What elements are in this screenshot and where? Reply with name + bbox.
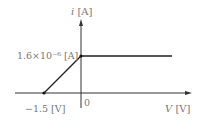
origin-label: 0: [84, 97, 90, 108]
iv-diagram: i [A] 1.6×10⁻⁶ [A] −1.5 [V] 0 V [V]: [0, 0, 201, 127]
iv-curve: [44, 56, 172, 93]
x-axis-label: V [V]: [165, 103, 191, 114]
cutoff-label: −1.5 [V]: [25, 103, 65, 114]
y-axis-arrow-icon: [79, 19, 83, 26]
saturation-label: 1.6×10⁻⁶ [A]: [17, 50, 78, 61]
cutoff-point: [42, 91, 45, 94]
x-axis-arrow-icon: [185, 91, 192, 95]
saturation-point: [79, 54, 82, 57]
y-axis-label: i [A]: [71, 6, 93, 17]
